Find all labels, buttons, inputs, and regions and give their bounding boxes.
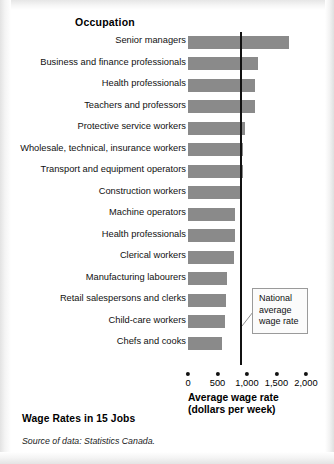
bar [188, 100, 255, 113]
category-label: Transport and equipment operators [41, 164, 186, 174]
category-label: Machine operators [109, 207, 186, 217]
chart-row: Senior managers [11, 32, 325, 54]
chart-row: Construction workers [11, 183, 325, 205]
chart-row: Clerical workers [11, 247, 325, 269]
category-label: Retail salespersons and clerks [60, 293, 186, 303]
axis-tick-label: 0 [185, 378, 190, 388]
category-label: Clerical workers [120, 250, 186, 260]
bar [188, 337, 222, 350]
axis-tick-label: 1,500 [265, 378, 288, 388]
page-edge-bottom [0, 452, 334, 464]
axis-tick-dot [274, 372, 278, 376]
category-label: Wholesale, technical, insurance workers [20, 143, 186, 153]
chart-row: Manufacturing labourers [11, 269, 325, 291]
page-edge-left [0, 0, 11, 464]
bar [188, 79, 255, 92]
axis-tick-dot [186, 372, 190, 376]
category-label: Manufacturing labourers [86, 272, 186, 282]
axis-tick-label: 1,000 [235, 378, 258, 388]
bar [188, 57, 258, 70]
category-label: Teachers and professors [84, 100, 186, 110]
category-label: Chefs and cooks [117, 336, 186, 346]
bar [188, 294, 226, 307]
bar [188, 229, 235, 242]
chart-card: Occupation Chefs and cooksChild-care wor… [11, 10, 325, 410]
chart-row: Wholesale, technical, insurance workers [11, 140, 325, 162]
bar [188, 143, 243, 156]
chart-row: Teachers and professors [11, 97, 325, 119]
bar [188, 165, 243, 178]
chart-row: Business and finance professionals [11, 54, 325, 76]
chart-row: Transport and equipment operators [11, 161, 325, 183]
bar [188, 122, 245, 135]
chart-row: Health professionals [11, 226, 325, 248]
bar [188, 36, 289, 49]
axis-tick-label: 2,000 [294, 378, 317, 388]
chart-row: Protective service workers [11, 118, 325, 140]
bar [188, 186, 241, 199]
chart-row: Health professionals [11, 75, 325, 97]
bar [188, 315, 225, 328]
occupation-column-header: Occupation [11, 16, 199, 28]
x-axis-title: Average wage rate(dollars per week) [188, 392, 279, 416]
figure-source: Source of data: Statistics Canada. [22, 436, 155, 446]
chart-row: Chefs and cooks [11, 333, 325, 355]
figure-page: Occupation Chefs and cooksChild-care wor… [0, 0, 334, 464]
figure-title: Wage Rates in 15 Jobs [22, 413, 135, 424]
national-average-callout: National average wage rate [252, 288, 308, 334]
category-label: Health professionals [102, 78, 186, 88]
category-label: Protective service workers [78, 121, 187, 131]
x-axis: Average wage rate(dollars per week) 0500… [11, 372, 325, 410]
bar [188, 251, 234, 264]
bar [188, 272, 227, 285]
page-edge-right [325, 0, 334, 464]
category-label: Construction workers [99, 186, 186, 196]
axis-tick-dot [215, 372, 219, 376]
category-label: Health professionals [102, 229, 186, 239]
category-label: Business and finance professionals [40, 57, 186, 67]
bar-chart-plot-area: Chefs and cooksChild-care workersRetail … [11, 32, 325, 372]
page-edge-top [0, 0, 334, 10]
axis-tick-dot [304, 372, 308, 376]
category-label: Child-care workers [109, 315, 187, 325]
axis-tick-dot [245, 372, 249, 376]
axis-tick-label: 500 [210, 378, 226, 388]
chart-row: Machine operators [11, 204, 325, 226]
bar [188, 208, 235, 221]
category-label: Senior managers [115, 35, 186, 45]
